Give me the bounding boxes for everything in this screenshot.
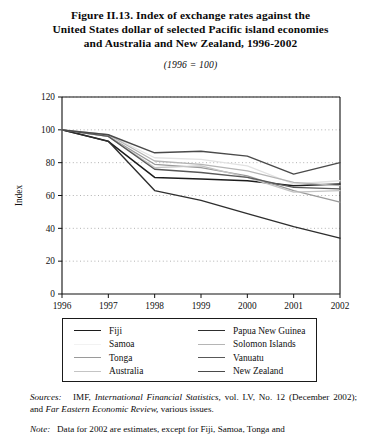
- legend-grid: FijiPapua New GuineaSamoaSolomon Islands…: [63, 324, 316, 378]
- legend-label: Samoa: [109, 339, 135, 349]
- line-chart: 0204060801001201996199719981999200020012…: [0, 88, 381, 310]
- legend-item: Fiji: [63, 324, 187, 338]
- legend-label: Tonga: [109, 353, 132, 363]
- legend-item: Australia: [63, 365, 187, 379]
- sources-note: Sources: IMF, International Financial St…: [30, 392, 357, 415]
- legend-item: New Zealand: [187, 365, 318, 379]
- legend-line-swatch: [198, 357, 225, 358]
- y-axis-tick-label: 60: [46, 191, 56, 201]
- legend-line-swatch: [74, 371, 101, 372]
- figure-notes: Sources: IMF, International Financial St…: [0, 392, 381, 436]
- sources-text-c: various issues.: [161, 404, 214, 414]
- x-axis-tick-label: 1997: [99, 301, 118, 310]
- legend-line-swatch: [198, 371, 225, 372]
- legend-label: Solomon Islands: [233, 339, 296, 349]
- sources-text-a: IMF,: [73, 392, 91, 402]
- sources-italic-a: International Financial Statistics,: [95, 392, 221, 402]
- legend-item: Samoa: [63, 338, 187, 352]
- figure-page: Figure II.13. Index of exchange rates ag…: [0, 0, 381, 438]
- title-line-2: United States dollar of selected Pacific…: [14, 22, 367, 36]
- legend-label: New Zealand: [233, 366, 283, 376]
- legend-item: Solomon Islands: [187, 338, 318, 352]
- x-axis-tick-label: 2001: [284, 301, 303, 310]
- y-axis-tick-label: 20: [46, 256, 56, 266]
- plot-background: [62, 97, 340, 294]
- sources-italic-b: Far Eastern Economic Review,: [45, 404, 158, 414]
- legend-item: Vanuatu: [187, 351, 318, 365]
- y-axis-tick-label: 80: [46, 158, 56, 168]
- title-line-3: and Australia and New Zealand, 1996-2002: [14, 36, 367, 50]
- legend-line-swatch: [198, 344, 225, 345]
- page-title: Figure II.13. Index of exchange rates ag…: [14, 8, 367, 51]
- note-text: Data for 2002 are estimates, except for …: [57, 424, 285, 434]
- y-axis-tick-label: 0: [50, 289, 55, 299]
- chart-plot-area: 0204060801001201996199719981999200020012…: [0, 88, 381, 310]
- chart-subtitle: (1996 = 100): [14, 59, 367, 70]
- legend-label: Papua New Guinea: [233, 326, 305, 336]
- title-block: Figure II.13. Index of exchange rates ag…: [0, 0, 381, 70]
- x-axis-tick-label: 2002: [331, 301, 350, 310]
- legend-item: Tonga: [63, 351, 187, 365]
- x-axis-tick-label: 1996: [53, 301, 72, 310]
- x-axis-tick-label: 1999: [192, 301, 211, 310]
- x-axis-tick-label: 1998: [145, 301, 164, 310]
- legend-line-swatch: [74, 330, 101, 331]
- legend-line-swatch: [198, 330, 225, 331]
- legend-label: Fiji: [109, 326, 122, 336]
- legend-item: Papua New Guinea: [187, 324, 318, 338]
- sources-label: Sources:: [30, 392, 61, 402]
- legend-label: Australia: [109, 366, 143, 376]
- y-axis-tick-label: 100: [41, 125, 55, 135]
- chart-legend: FijiPapua New GuineaSamoaSolomon Islands…: [62, 318, 317, 382]
- y-axis-title: Index: [14, 185, 24, 207]
- y-axis-tick-label: 120: [41, 92, 55, 102]
- legend-line-swatch: [74, 357, 101, 358]
- x-axis-tick-label: 2000: [238, 301, 257, 310]
- legend-label: Vanuatu: [233, 353, 264, 363]
- y-axis-tick-label: 40: [46, 224, 56, 234]
- note-label: Note:: [30, 424, 50, 434]
- title-line-1: Figure II.13. Index of exchange rates ag…: [14, 8, 367, 22]
- legend-line-swatch: [74, 344, 101, 345]
- data-note: Note: Data for 2002 are estimates, excep…: [30, 424, 357, 436]
